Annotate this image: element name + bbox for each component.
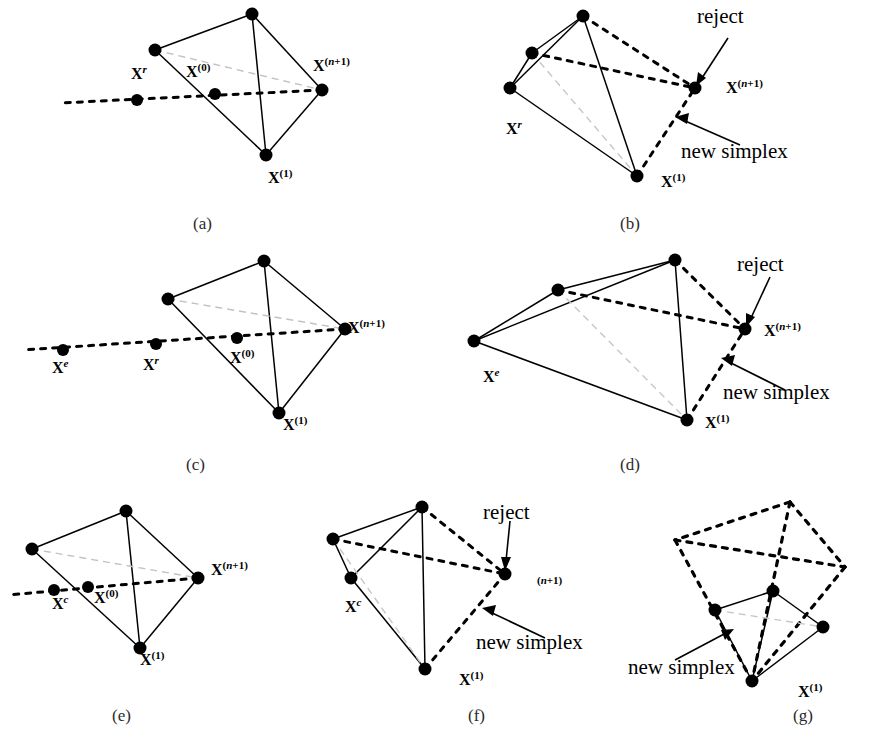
panel-e-label-x-1: X(1) <box>140 650 164 668</box>
panel-b-label-x-n-plus-1: X(n+1) <box>726 78 763 96</box>
panel-e-label-x-0: X(0) <box>94 588 118 606</box>
caption-a: (a) <box>193 214 212 234</box>
panel-b-new-simplex-label: new simplex <box>681 139 788 164</box>
panel-a-label-x-n-plus-1: X(n+1) <box>313 56 350 74</box>
panel-b-reject-label: reject <box>697 4 744 29</box>
panel-f-reject-arrow <box>501 521 511 571</box>
panel-b-reject-arrow <box>696 38 728 86</box>
panel-d-label-x-1: X(1) <box>705 413 729 431</box>
caption-c: (c) <box>186 455 205 475</box>
panel-f-label-n-plus-1: (n+1) <box>537 575 562 593</box>
caption-d: (d) <box>620 455 640 475</box>
panel-e-vertices <box>26 505 205 655</box>
panel-g-label-x-1: X(1) <box>798 682 822 700</box>
caption-b: (b) <box>620 214 640 234</box>
panel-c-label-x-n-plus-1: X(n+1) <box>348 318 385 336</box>
panel-a-label-x-0: X(0) <box>186 62 210 80</box>
figure-nelder-mead: Xr X(0) X(n+1) X(1) <box>0 0 875 747</box>
panel-f-label-x-1: X(1) <box>459 670 483 688</box>
panel-d-diagram <box>440 240 875 450</box>
panel-f-diagram <box>310 485 630 700</box>
panel-a-label-x-1: X(1) <box>268 168 292 186</box>
panel-c-label-x-r: Xr <box>143 355 159 373</box>
panel-e-label-x-c: Xc <box>52 594 68 612</box>
panel-f-reject-label: reject <box>483 500 530 525</box>
panel-f-new-simplex-label: new simplex <box>476 630 583 655</box>
panel-d-reject-label: reject <box>737 252 784 277</box>
panel-b-vertices <box>504 10 702 183</box>
panel-a-diagram <box>0 0 440 210</box>
panel-d-label-x-n-plus-1: X(n+1) <box>764 321 801 339</box>
panel-e-label-x-n-plus-1: X(n+1) <box>211 560 248 578</box>
panel-d-label-x-e: Xe <box>483 367 499 385</box>
caption-f: (f) <box>468 706 485 726</box>
panel-b-label-x-r: Xr <box>506 119 522 137</box>
panel-c-diagram <box>0 240 440 450</box>
panel-c-label-x-0: X(0) <box>230 348 254 366</box>
panel-d-new-simplex-label: new simplex <box>723 380 830 405</box>
panel-d-reject-arrow <box>746 277 770 327</box>
panel-g-new-simplex-label: new simplex <box>628 655 735 680</box>
panel-b-diagram <box>440 0 875 210</box>
panel-a-label-x-r: Xr <box>131 64 147 82</box>
panel-c-label-x-e: Xe <box>52 358 68 376</box>
caption-e: (e) <box>112 706 131 726</box>
panel-c-label-x-1: X(1) <box>283 415 307 433</box>
panel-f-label-x-c: Xc <box>345 597 361 615</box>
caption-g: (g) <box>793 706 813 726</box>
panel-d-vertices <box>468 254 752 427</box>
panel-b-label-x-1: X(1) <box>661 172 685 190</box>
